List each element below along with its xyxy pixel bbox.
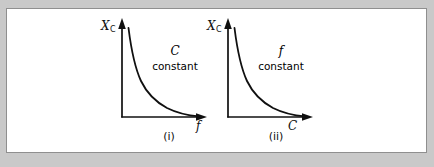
chart-ii-annotation-word: constant <box>258 60 304 72</box>
figure-root: XC f C constant (i) XC C f constant (ii) <box>0 0 434 167</box>
chart-ii-annotation-symbol: f <box>279 44 283 58</box>
chart-i-y-axis-label-main: X <box>101 19 110 33</box>
chart-i-y-axis-label-subscript: C <box>110 25 116 34</box>
chart-i-annotation: C constant <box>144 44 206 72</box>
chart-ii-caption: (ii) <box>255 131 297 142</box>
chart-ii-annotation: f constant <box>250 44 312 72</box>
chart-ii-y-axis-label: XC <box>207 20 222 34</box>
chart-ii-y-axis-label-main: X <box>207 19 216 33</box>
chart-i-annotation-word: constant <box>152 60 198 72</box>
chart-i-y-axis-label: XC <box>101 20 116 34</box>
chart-i-caption: (i) <box>148 131 190 142</box>
chart-i-x-axis-label: f <box>196 120 200 132</box>
chart-i-annotation-symbol: C <box>170 44 179 58</box>
chart-ii-y-axis-label-subscript: C <box>216 25 222 34</box>
